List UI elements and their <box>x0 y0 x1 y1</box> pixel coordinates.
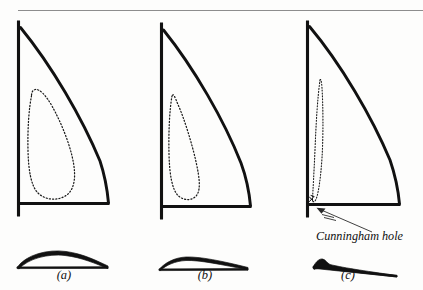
leech-c <box>310 27 400 205</box>
panel-label-a: (a) <box>57 268 72 282</box>
cunningham-hole-label: Cunningham hole <box>316 229 404 243</box>
sail-section-a <box>17 251 108 269</box>
panel-label-b: (b) <box>198 268 213 282</box>
leech-a <box>21 28 109 204</box>
figure-container: (a) (b) <box>0 0 423 290</box>
camber-contour-b <box>169 95 199 200</box>
camber-contour-a <box>28 89 75 199</box>
sail-section-c-chord <box>313 267 397 277</box>
cunningham-hole-mark <box>310 196 315 202</box>
sail-panel-a: (a) <box>17 21 110 283</box>
sail-panel-b: (b) <box>159 23 252 283</box>
figure-canvas: (a) (b) <box>0 0 423 290</box>
leech-b <box>164 30 251 206</box>
camber-contour-c <box>312 79 322 201</box>
panel-label-c: (c) <box>341 268 355 282</box>
